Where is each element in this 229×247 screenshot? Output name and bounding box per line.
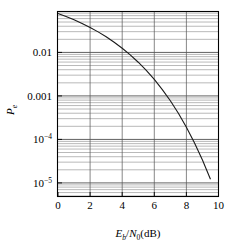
y-tick-label: 10−5 [33, 176, 52, 189]
y-axis-title: Pe [4, 104, 19, 116]
x-title-unit: (dB) [140, 227, 161, 240]
x-tick-label: 10 [213, 199, 225, 211]
y-axis-tick-labels: 0.010.00110−410−5 [27, 46, 52, 188]
x-tick-label: 6 [152, 199, 158, 211]
y-tick-label: 10−4 [33, 132, 52, 145]
x-tick-label: 8 [184, 199, 190, 211]
x-tick-label: 2 [87, 199, 93, 211]
x-axis-tick-labels: 0246810 [55, 199, 224, 211]
figure-container: 0246810 0.010.00110−410−5 Eb/N0(dB) Pe [0, 0, 229, 247]
y-title-e: e [10, 104, 19, 108]
x-tick-label: 0 [55, 199, 61, 211]
y-tick-label: 0.001 [27, 90, 52, 102]
ber-chart: 0246810 0.010.00110−410−5 Eb/N0(dB) Pe [0, 0, 229, 247]
x-axis-title: Eb/N0(dB) [115, 227, 161, 242]
y-tick-label: 0.01 [33, 46, 52, 58]
x-tick-label: 4 [119, 199, 125, 211]
